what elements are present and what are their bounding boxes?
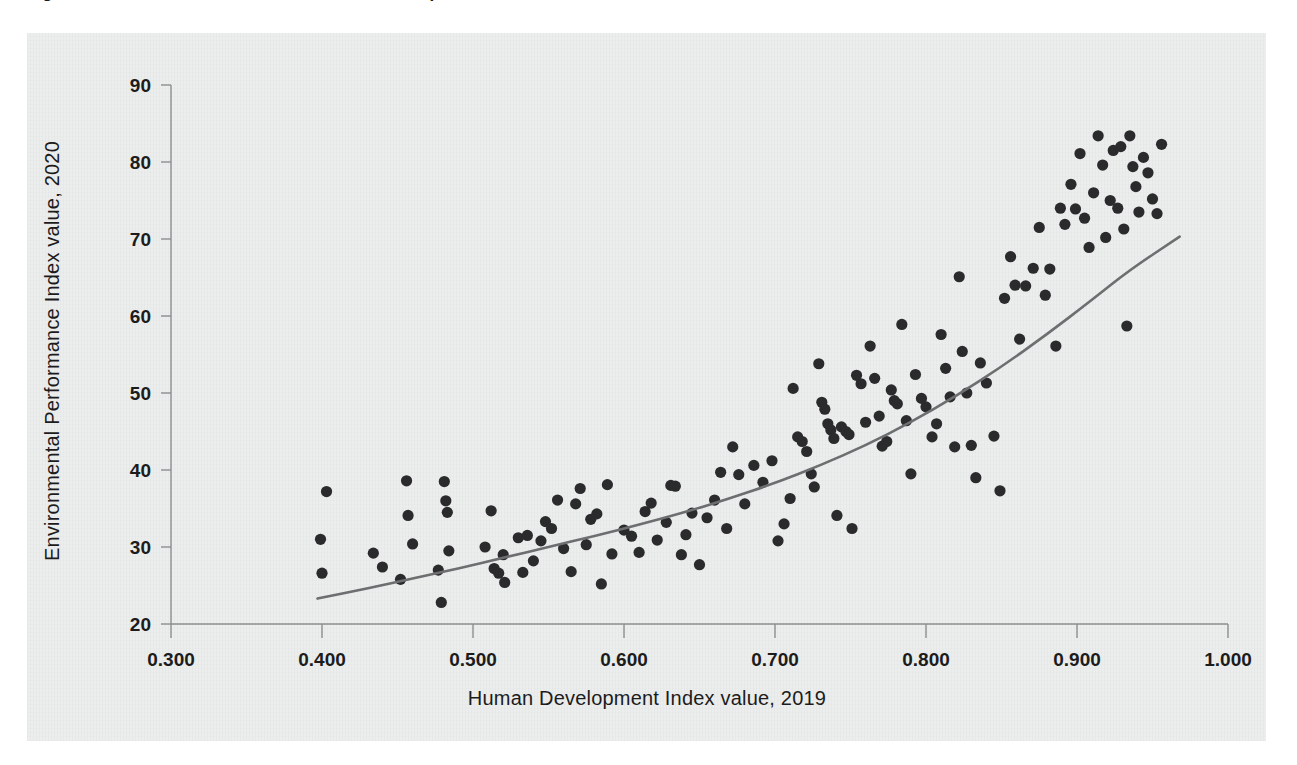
y-tick-label: 80: [130, 152, 151, 173]
scatter-point: [1127, 161, 1138, 172]
x-tick-label: 0.400: [298, 649, 346, 670]
scatter-point: [596, 578, 607, 589]
x-tick-label: 0.300: [147, 649, 195, 670]
scatter-point: [1147, 193, 1158, 204]
scatter-point: [443, 545, 454, 556]
y-tick-label: 20: [130, 614, 151, 635]
scatter-point: [896, 319, 907, 330]
scatter-point: [949, 441, 960, 452]
scatter-point: [315, 534, 326, 545]
scatter-point: [486, 505, 497, 516]
x-tick-label: 1.000: [1204, 649, 1252, 670]
y-tick-label: 60: [130, 306, 151, 327]
scatter-point: [785, 493, 796, 504]
scatter-point: [843, 429, 854, 440]
x-tick-label: 0.500: [449, 649, 497, 670]
scatter-point: [1112, 203, 1123, 214]
scatter-point: [966, 440, 977, 451]
x-tick-label: 0.700: [751, 649, 799, 670]
scatter-point: [694, 559, 705, 570]
scatter-point: [999, 293, 1010, 304]
scatter-points: [315, 130, 1167, 608]
y-axis-title: Environmental Performance Index value, 2…: [41, 141, 63, 561]
scatter-point: [855, 378, 866, 389]
scatter-point: [801, 446, 812, 457]
scatter-point: [721, 523, 732, 534]
scatter-point: [591, 508, 602, 519]
scatter-point: [1142, 167, 1153, 178]
scatter-point: [676, 549, 687, 560]
x-tick-label: 0.600: [600, 649, 648, 670]
scatter-point: [860, 417, 871, 428]
x-axis-title: Human Development Index value, 2019: [468, 687, 826, 709]
scatter-point: [778, 518, 789, 529]
scatter-point: [439, 476, 450, 487]
x-axis-tick-labels: 0.3000.4000.5000.6000.7000.8000.9001.000: [147, 649, 1252, 670]
scatter-point: [401, 475, 412, 486]
scatter-point: [766, 455, 777, 466]
scatter-point: [905, 468, 916, 479]
y-axis-tick-labels: 2030405060708090: [130, 75, 151, 635]
scatter-point: [1088, 187, 1099, 198]
scatter-point: [436, 597, 447, 608]
scatter-point: [701, 512, 712, 523]
scatter-point: [1020, 280, 1031, 291]
scatter-point: [1065, 179, 1076, 190]
scatter-point: [970, 472, 981, 483]
scatter-point: [1055, 203, 1066, 214]
scatter-point: [626, 531, 637, 542]
scatter-point: [1050, 340, 1061, 351]
scatter-point: [535, 535, 546, 546]
scatter-point: [1115, 141, 1126, 152]
axis-lines: [161, 85, 1228, 638]
scatter-point: [1059, 219, 1070, 230]
scatter-point: [819, 404, 830, 415]
scatter-point: [1079, 213, 1090, 224]
scatter-point: [479, 541, 490, 552]
scatter-point: [797, 436, 808, 447]
scatter-point: [1028, 263, 1039, 274]
scatter-point: [1121, 320, 1132, 331]
scatter-point: [517, 567, 528, 578]
scatter-point: [1014, 334, 1025, 345]
scatter-point: [931, 418, 942, 429]
trend-line: [317, 237, 1179, 599]
scatter-point: [1156, 139, 1167, 150]
scatter-point: [926, 431, 937, 442]
scatter-point: [828, 433, 839, 444]
scatter-point: [954, 271, 965, 282]
scatter-point: [874, 411, 885, 422]
scatter-point: [575, 483, 586, 494]
scatter-point: [528, 555, 539, 566]
scatter-point: [1130, 181, 1141, 192]
scatter-point: [869, 373, 880, 384]
scatter-point: [680, 529, 691, 540]
scatter-point: [1034, 222, 1045, 233]
scatter-point: [566, 566, 577, 577]
scatter-point: [581, 539, 592, 550]
scatter-point: [892, 398, 903, 409]
scatter-point: [1083, 242, 1094, 253]
scatter-point: [886, 384, 897, 395]
scatter-point: [602, 479, 613, 490]
scatter-point: [788, 383, 799, 394]
scatter-point: [1138, 152, 1149, 163]
scatter-point: [988, 431, 999, 442]
scatter-point: [1133, 206, 1144, 217]
scatter-point: [546, 523, 557, 534]
scatter-point: [1151, 208, 1162, 219]
scatter-point: [831, 510, 842, 521]
scatter-point: [1040, 290, 1051, 301]
scatter-point: [1100, 232, 1111, 243]
scatter-point: [440, 495, 451, 506]
scatter-point: [670, 481, 681, 492]
scatter-point: [493, 568, 504, 579]
scatter-point: [733, 469, 744, 480]
scatter-point: [1124, 130, 1135, 141]
scatter-point: [1044, 263, 1055, 274]
scatter-point: [402, 510, 413, 521]
scatter-point: [940, 363, 951, 374]
scatter-point: [715, 467, 726, 478]
scatter-point: [634, 547, 645, 558]
scatter-point: [570, 498, 581, 509]
